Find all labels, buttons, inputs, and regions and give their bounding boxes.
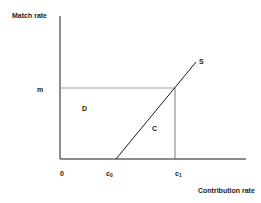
x-tick-label-origin: 0	[60, 170, 64, 177]
c1-subscript: 1	[179, 172, 182, 178]
region-label-d: D	[82, 105, 87, 112]
curve-label-s: S	[199, 58, 204, 65]
region-label-c: C	[152, 125, 157, 132]
x-tick-label-c1: c1	[175, 170, 182, 178]
supply-curve-s	[116, 62, 196, 159]
c0-subscript: 0	[110, 172, 113, 178]
y-tick-label-m: m	[37, 86, 43, 93]
diagram-canvas	[0, 0, 261, 203]
y-axis-label: Match rate	[12, 12, 47, 19]
x-axis-label: Contribution rate	[198, 187, 255, 194]
x-tick-label-c0: c0	[106, 170, 113, 178]
